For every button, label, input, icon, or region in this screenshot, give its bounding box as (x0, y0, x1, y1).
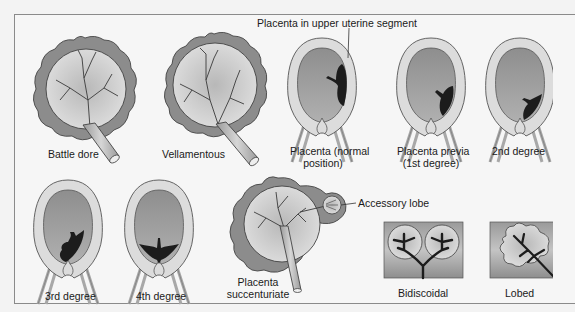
bidiscoidal-placenta-illustration (384, 222, 463, 278)
previa-first-degree-uterus-illustration (397, 38, 466, 162)
succenturiate-label-line1: Placenta (222, 276, 294, 288)
previa-fourth-degree-uterus-illustration (125, 180, 194, 304)
previa-first-degree-label-line1: Placenta previa (397, 145, 465, 157)
previa-second-degree-label: 2nd degree (492, 145, 545, 157)
succenturiate-label-line2: succenturiate (222, 288, 294, 300)
normal-position-label-line2: position) (290, 157, 356, 169)
upper-segment-callout: Placenta in upper uterine segment (257, 17, 417, 29)
bidiscoidal-label: Bidiscoidal (398, 287, 448, 299)
lobed-label: Lobed (505, 287, 534, 299)
battledore-placenta-illustration (33, 36, 136, 164)
normal-position-label-line1: Placenta (normal (290, 145, 356, 157)
normal-position-label: Placenta (normal position) (290, 145, 356, 169)
previa-first-degree-label: Placenta previa (1st degree) (397, 145, 465, 169)
previa-second-degree-uterus-illustration (486, 38, 553, 162)
accessory-lobe-callout: Accessory lobe (358, 197, 429, 209)
previa-fourth-degree-label: 4th degree (136, 290, 186, 302)
previa-first-degree-label-line2: (1st degree) (397, 157, 465, 169)
previa-third-degree-uterus-illustration (34, 180, 103, 304)
succenturiate-label: Placenta succenturiate (222, 276, 294, 300)
velamentous-label: Vellamentous (162, 148, 225, 160)
lobed-placenta-illustration (490, 222, 553, 278)
battledore-label: Battle dore (48, 148, 99, 160)
previa-third-degree-label: 3rd degree (45, 290, 96, 302)
normal-position-uterus-illustration (288, 38, 357, 162)
